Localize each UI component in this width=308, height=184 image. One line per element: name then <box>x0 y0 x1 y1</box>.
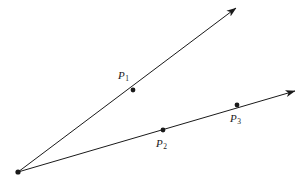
point-p3-label: P3 <box>230 113 241 126</box>
point-p2-dot <box>161 128 166 133</box>
lower-ray <box>18 91 295 172</box>
point-p2-label-base: P <box>156 137 163 149</box>
point-p2-label-subscript: 2 <box>163 142 167 151</box>
point-p1-label-base: P <box>118 69 125 81</box>
point-p3-label-subscript: 3 <box>237 117 241 126</box>
point-p3-label-base: P <box>230 112 237 124</box>
geometry-figure: P1 P2 P3 <box>0 0 308 184</box>
point-p1-dot <box>131 88 136 93</box>
points-group <box>15 88 239 175</box>
figure-canvas <box>0 0 308 184</box>
point-p3-dot <box>235 103 240 108</box>
upper-ray <box>18 8 236 172</box>
vertex-point <box>15 169 20 174</box>
point-p2-label: P2 <box>156 138 167 151</box>
point-p1-label-subscript: 1 <box>125 74 129 83</box>
point-p1-label: P1 <box>118 70 129 83</box>
